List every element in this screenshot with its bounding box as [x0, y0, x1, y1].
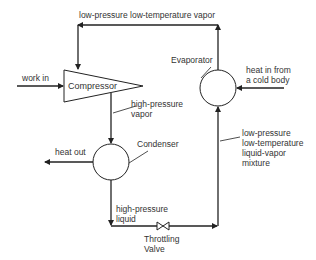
heat-in-line2: a cold body — [246, 75, 291, 85]
hp-vapor-line2: vapor — [131, 109, 183, 119]
heat-in-line1: heat in from — [246, 65, 291, 75]
mixture-line1: low-pressure — [242, 128, 303, 138]
valve-line2: Valve — [144, 244, 179, 254]
mixture-line2: low-temperature — [242, 138, 303, 148]
throttling-valve-label: Throttling Valve — [144, 234, 179, 254]
compressor-label: Compressor — [68, 81, 117, 91]
hp-liquid-line1: high-pressure — [116, 204, 168, 214]
condenser-label: Condenser — [137, 139, 179, 149]
mixture-label: low-pressure low-temperature liquid-vapo… — [242, 128, 303, 168]
mixture-line3: liquid-vapor — [242, 148, 303, 158]
evaporator-label: Evaporator — [171, 55, 213, 65]
hp-vapor-line1: high-pressure — [131, 99, 183, 109]
top-flow-label: low-pressure low-temperature vapor — [79, 10, 215, 20]
condenser-circle — [93, 144, 129, 180]
valve-line1: Throttling — [144, 234, 179, 244]
heat-out-label: heat out — [55, 147, 86, 157]
hp-liquid-line2: liquid — [116, 214, 168, 224]
evaporator-circle — [200, 70, 236, 106]
heat-in-label: heat in from a cold body — [246, 65, 291, 85]
hp-vapor-label: high-pressure vapor — [131, 99, 183, 119]
work-in-label: work in — [22, 73, 49, 83]
hp-liquid-label: high-pressure liquid — [116, 204, 168, 224]
mixture-line4: mixture — [242, 158, 303, 168]
